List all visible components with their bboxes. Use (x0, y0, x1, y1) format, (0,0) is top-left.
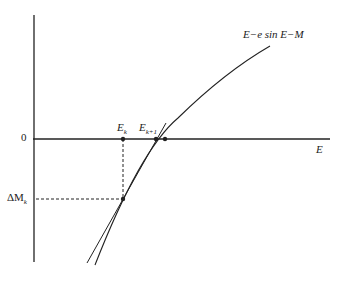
function-curve (95, 46, 270, 265)
point-tangent (121, 197, 125, 201)
delta-m-sub: k (24, 198, 27, 206)
y-tick-delta: ΔMk (7, 191, 27, 206)
diagram-canvas (0, 0, 343, 281)
point-ek1 (154, 137, 158, 141)
ek1-text: E (139, 121, 146, 133)
ek-sub: k (124, 128, 127, 136)
point-ek (121, 137, 125, 141)
curve-label: E−e sin E−M (243, 28, 304, 40)
point-root (163, 137, 167, 141)
delta-m-text: ΔM (7, 191, 24, 203)
label-ek1: Ek+1 (139, 121, 157, 136)
ek1-sub: k+1 (146, 128, 157, 136)
y-tick-zero: 0 (21, 131, 27, 143)
label-ek: Ek (117, 121, 127, 136)
x-axis-label: E (316, 143, 323, 155)
ek-text: E (117, 121, 124, 133)
tangent-line (87, 123, 166, 263)
